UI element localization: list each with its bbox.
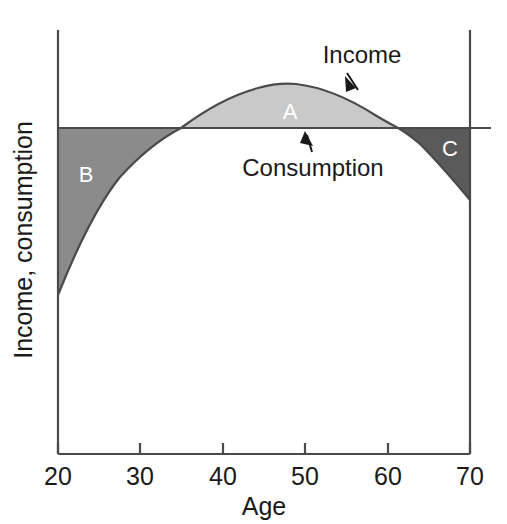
consumption-arrow-head [300,131,313,146]
region-c-shape [398,128,470,200]
region-b-shape [58,128,181,295]
consumption-label: Consumption [242,154,383,181]
x-tick-label-60: 60 [374,462,402,490]
region-label-a: A [283,99,298,124]
y-axis-title: Income, consumption [9,121,37,359]
region-label-b: B [79,162,94,187]
chart-svg: 20 30 40 50 60 70 Age Income, consumptio… [0,0,507,524]
x-tick-label-40: 40 [209,462,237,490]
x-axis-title: Age [242,492,286,520]
life-cycle-income-consumption-chart: 20 30 40 50 60 70 Age Income, consumptio… [0,0,507,524]
x-tick-label-20: 20 [44,462,72,490]
x-tick-label-30: 30 [126,462,154,490]
region-label-c: C [442,136,458,161]
x-tick-label-70: 70 [456,462,484,490]
x-tick-label-50: 50 [291,462,319,490]
income-label: Income [323,41,402,68]
